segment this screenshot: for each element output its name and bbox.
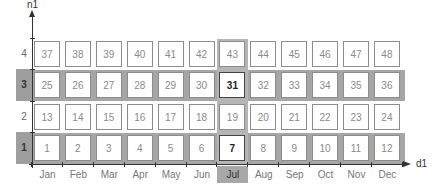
grid-cell[interactable]: 42: [189, 41, 215, 67]
column-label: Apr: [125, 169, 155, 180]
grid-cell[interactable]: 14: [65, 104, 91, 130]
column-label: Feb: [63, 169, 93, 180]
x-axis-tick: [278, 162, 279, 167]
grid-cell[interactable]: 15: [96, 104, 122, 130]
column-label: Sep: [280, 169, 310, 180]
x-axis-tick: [309, 162, 310, 167]
row-label: 3: [16, 79, 32, 90]
x-axis-tick: [186, 162, 187, 167]
column-label: Nov: [342, 169, 372, 180]
grid-cell[interactable]: 13: [34, 104, 60, 130]
grid-cell[interactable]: 41: [158, 41, 184, 67]
grid-cell[interactable]: 9: [281, 135, 307, 161]
grid-cell[interactable]: 22: [312, 104, 338, 130]
x-axis-arrow-icon: [403, 161, 411, 167]
grid-cell[interactable]: 18: [189, 104, 215, 130]
grid-cell[interactable]: 8: [250, 135, 276, 161]
y-axis-tick: [30, 69, 35, 70]
column-label: Mar: [94, 169, 124, 180]
grid-cell[interactable]: 35: [343, 72, 369, 98]
grid-cell[interactable]: 31: [219, 72, 245, 98]
grid-cell[interactable]: 32: [250, 72, 276, 98]
y-axis-arrow-icon: [29, 10, 35, 17]
grid-cell[interactable]: 7: [219, 135, 245, 161]
grid-cell[interactable]: 48: [374, 41, 400, 67]
grid-cell[interactable]: 4: [127, 135, 153, 161]
grid-cell[interactable]: 23: [343, 104, 369, 130]
grid-cell[interactable]: 1: [34, 135, 60, 161]
grid-cell[interactable]: 5: [158, 135, 184, 161]
grid-cell[interactable]: 44: [250, 41, 276, 67]
y-axis-tick: [30, 101, 35, 102]
x-axis-tick: [340, 162, 341, 167]
grid-cell[interactable]: 40: [127, 41, 153, 67]
grid-cell[interactable]: 47: [343, 41, 369, 67]
row-label: 1: [16, 142, 32, 153]
grid-cell[interactable]: 3: [96, 135, 122, 161]
grid-cell[interactable]: 20: [250, 104, 276, 130]
grid-cell[interactable]: 37: [34, 41, 60, 67]
x-axis-tick: [247, 162, 248, 167]
grid-cell[interactable]: 33: [281, 72, 307, 98]
column-label: Jun: [187, 169, 217, 180]
grid-cell[interactable]: 2: [65, 135, 91, 161]
grid-cell[interactable]: 26: [65, 72, 91, 98]
column-label: Aug: [249, 169, 279, 180]
x-axis-tick: [402, 162, 403, 167]
grid-cell[interactable]: 34: [312, 72, 338, 98]
x-axis-tick: [93, 162, 94, 167]
grid-cell[interactable]: 38: [65, 41, 91, 67]
grid-cell[interactable]: 21: [281, 104, 307, 130]
grid-cell[interactable]: 28: [127, 72, 153, 98]
grid-cell[interactable]: 19: [219, 104, 245, 130]
y-axis-tick: [30, 38, 35, 39]
grid-cell[interactable]: 6: [189, 135, 215, 161]
x-axis-tick: [62, 162, 63, 167]
column-label: Jul: [218, 169, 248, 180]
grid-cell[interactable]: 45: [281, 41, 307, 67]
x-axis-label: d1: [416, 158, 427, 169]
grid-cell[interactable]: 24: [374, 104, 400, 130]
y-axis-tick: [30, 132, 35, 133]
x-axis-tick: [124, 162, 125, 167]
grid-cell[interactable]: 27: [96, 72, 122, 98]
x-axis-tick: [155, 162, 156, 167]
x-axis-tick: [371, 162, 372, 167]
grid-cell[interactable]: 30: [189, 72, 215, 98]
column-label: Dec: [372, 169, 402, 180]
grid-cell[interactable]: 43: [219, 41, 245, 67]
x-axis-tick: [216, 162, 217, 167]
grid-cell[interactable]: 25: [34, 72, 60, 98]
grid-cell[interactable]: 46: [312, 41, 338, 67]
grid-cell[interactable]: 12: [374, 135, 400, 161]
column-label: May: [156, 169, 186, 180]
row-label: 4: [16, 48, 32, 59]
grid-cell[interactable]: 39: [96, 41, 122, 67]
grid-cell[interactable]: 11: [343, 135, 369, 161]
grid-cell[interactable]: 17: [158, 104, 184, 130]
row-label: 2: [16, 111, 32, 122]
grid-cell[interactable]: 10: [312, 135, 338, 161]
y-axis-tick: [30, 164, 35, 165]
grid-cell[interactable]: 36: [374, 72, 400, 98]
column-label: Oct: [311, 169, 341, 180]
column-label: Jan: [33, 169, 63, 180]
y-axis-label: n1: [27, 0, 38, 10]
grid-cell[interactable]: 16: [127, 104, 153, 130]
grid-cell[interactable]: 29: [158, 72, 184, 98]
